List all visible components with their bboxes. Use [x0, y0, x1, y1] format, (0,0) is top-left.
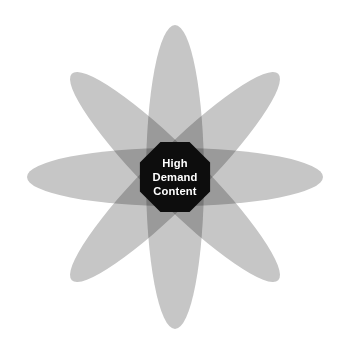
- core-badge: [140, 142, 210, 212]
- petal-diagram: High Demand Content: [0, 0, 344, 350]
- petal-ellipse-group: [0, 0, 344, 350]
